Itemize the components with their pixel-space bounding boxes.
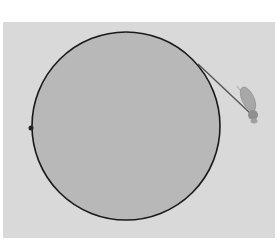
point-marker <box>29 126 34 131</box>
circle <box>32 32 220 220</box>
diagram-canvas <box>0 0 277 239</box>
